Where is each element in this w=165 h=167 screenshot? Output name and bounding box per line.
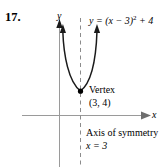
vertex-coordinates-label: (3, 4) <box>89 98 111 108</box>
equation-suffix: + 4 <box>137 15 154 26</box>
x-axis-label: x <box>152 110 156 120</box>
axis-of-symmetry-label: Axis of symmetry <box>86 128 158 138</box>
x-axis-arrowhead <box>141 112 151 120</box>
vertex-label: Vertex <box>89 85 115 95</box>
y-axis-label: y <box>57 11 61 21</box>
vertex-point-marker <box>78 89 83 94</box>
parabola-curve <box>63 31 97 91</box>
equation-label: y = (x − 3)2 + 4 <box>89 15 153 26</box>
parabola-figure: 17. y x y = (x − 3)2 + 4 Vertex (3, 4) A… <box>0 0 165 167</box>
equation-prefix: y = (x − 3) <box>89 15 133 26</box>
axis-of-symmetry-equation: x = 3 <box>86 141 107 151</box>
